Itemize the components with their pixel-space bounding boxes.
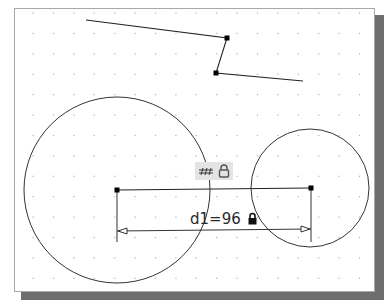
grid-dot bbox=[53, 217, 54, 218]
grid-dot bbox=[318, 115, 319, 116]
grid-dot bbox=[94, 135, 95, 136]
grid-dot bbox=[339, 278, 340, 279]
dimension-line[interactable] bbox=[117, 229, 311, 231]
grid-dot bbox=[73, 278, 74, 279]
grid-dot bbox=[135, 53, 136, 54]
grid-dot bbox=[114, 94, 115, 95]
grid-dot bbox=[73, 135, 74, 136]
grid-dot bbox=[277, 94, 278, 95]
dimension-text[interactable]: d1=96 bbox=[190, 210, 241, 228]
grid-dot bbox=[175, 13, 176, 14]
grid-dot bbox=[73, 74, 74, 75]
grid-dot bbox=[114, 278, 115, 279]
grid-dot bbox=[135, 94, 136, 95]
dimension-label[interactable]: d1=96 bbox=[190, 210, 258, 228]
grid-dot bbox=[33, 135, 34, 136]
vertex-point[interactable] bbox=[225, 36, 230, 41]
grid-dot bbox=[216, 257, 217, 258]
grid-dot bbox=[237, 53, 238, 54]
sketch-geometry[interactable] bbox=[24, 20, 369, 283]
vertex-point[interactable] bbox=[115, 188, 120, 193]
grid-dot bbox=[33, 176, 34, 177]
horizontal-constraint-icon[interactable] bbox=[199, 168, 213, 175]
grid-dot bbox=[277, 176, 278, 177]
grid-dot bbox=[196, 13, 197, 14]
grid-dot bbox=[298, 33, 299, 34]
grid-dot bbox=[359, 278, 360, 279]
grid-dot bbox=[114, 74, 115, 75]
vertex-point[interactable] bbox=[309, 186, 314, 191]
grid-dot bbox=[339, 217, 340, 218]
grid-dot bbox=[175, 257, 176, 258]
grid-dot bbox=[155, 135, 156, 136]
grid-dot bbox=[257, 115, 258, 116]
grid-dot bbox=[339, 176, 340, 177]
grid-dot bbox=[175, 135, 176, 136]
grid-dot bbox=[237, 237, 238, 238]
sketch-drawing[interactable] bbox=[0, 0, 391, 306]
grid-dot bbox=[257, 74, 258, 75]
grid-dot bbox=[53, 74, 54, 75]
grid-dot bbox=[155, 237, 156, 238]
grid-dot bbox=[53, 13, 54, 14]
grid-dot bbox=[94, 13, 95, 14]
grid-dot bbox=[196, 155, 197, 156]
grid-dot bbox=[155, 74, 156, 75]
grid-dot bbox=[277, 33, 278, 34]
grid-dot bbox=[135, 237, 136, 238]
lock-icon[interactable] bbox=[220, 165, 229, 177]
grid-dot bbox=[216, 33, 217, 34]
grid-dot bbox=[175, 74, 176, 75]
grid-dot bbox=[135, 74, 136, 75]
grid-dot bbox=[73, 33, 74, 34]
grid-dot bbox=[114, 13, 115, 14]
grid-dot bbox=[53, 237, 54, 238]
grid-dot bbox=[135, 196, 136, 197]
grid-dot bbox=[196, 278, 197, 279]
grid-dot bbox=[73, 115, 74, 116]
grid-dot bbox=[155, 33, 156, 34]
grid-dot bbox=[53, 135, 54, 136]
grid-dot bbox=[114, 33, 115, 34]
grid-dot bbox=[339, 74, 340, 75]
grid-dot bbox=[298, 94, 299, 95]
grid-dot bbox=[339, 94, 340, 95]
grid-dot bbox=[73, 94, 74, 95]
grid-dot bbox=[298, 217, 299, 218]
grid-dot bbox=[277, 115, 278, 116]
grid-dot bbox=[175, 196, 176, 197]
grid-dot bbox=[155, 13, 156, 14]
grid-dot bbox=[257, 33, 258, 34]
grid-dot bbox=[114, 176, 115, 177]
grid-dot bbox=[33, 53, 34, 54]
grid-dot bbox=[53, 53, 54, 54]
grid-dot bbox=[359, 196, 360, 197]
grid-dot bbox=[53, 115, 54, 116]
grid-dot bbox=[94, 176, 95, 177]
grid-dot bbox=[155, 94, 156, 95]
polyline-sketch[interactable] bbox=[86, 20, 303, 81]
grid-dot bbox=[339, 155, 340, 156]
constraint-badge[interactable] bbox=[195, 162, 233, 180]
grid-dot bbox=[277, 217, 278, 218]
grid-dot bbox=[237, 196, 238, 197]
center-line[interactable] bbox=[117, 188, 311, 190]
grid-dot bbox=[298, 13, 299, 14]
grid-dot bbox=[33, 13, 34, 14]
grid-dot bbox=[33, 278, 34, 279]
grid-dot bbox=[277, 196, 278, 197]
grid-dot bbox=[359, 33, 360, 34]
grid-dot bbox=[339, 115, 340, 116]
vertex-point[interactable] bbox=[214, 71, 219, 76]
grid-dot bbox=[73, 13, 74, 14]
grid-dot bbox=[175, 237, 176, 238]
grid-dot bbox=[73, 176, 74, 177]
grid-dot bbox=[298, 278, 299, 279]
grid-dot bbox=[155, 278, 156, 279]
grid-dot bbox=[114, 237, 115, 238]
grid-dot bbox=[318, 155, 319, 156]
dimension-lock-icon bbox=[247, 212, 258, 225]
grid-dot bbox=[196, 53, 197, 54]
grid-dot bbox=[339, 237, 340, 238]
grid-dot bbox=[257, 13, 258, 14]
